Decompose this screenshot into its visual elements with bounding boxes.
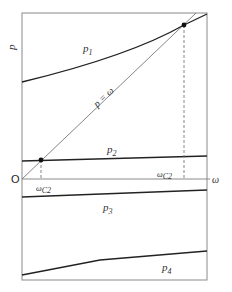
y-axis-label: p bbox=[5, 44, 17, 51]
label-p2: p2 bbox=[106, 143, 117, 158]
curve-p4 bbox=[22, 251, 207, 275]
label-p1: p1 bbox=[82, 42, 93, 57]
intersection-point-low bbox=[39, 158, 44, 163]
intersection-point-high bbox=[182, 23, 187, 28]
origin-label: O bbox=[11, 173, 20, 185]
plot-frame bbox=[22, 13, 207, 280]
label-p4: p4 bbox=[161, 261, 172, 276]
root-locus-diagram: p ω O p1 p2 p3 p4 p = ω ωC2 ωC2 bbox=[0, 0, 232, 292]
x-axis-label: ω bbox=[212, 174, 219, 185]
label-omega-c2-low: ωC2 bbox=[36, 184, 51, 195]
label-diagonal: p = ω bbox=[90, 85, 115, 110]
curve-p1 bbox=[22, 14, 207, 82]
label-p3: p3 bbox=[102, 201, 113, 216]
